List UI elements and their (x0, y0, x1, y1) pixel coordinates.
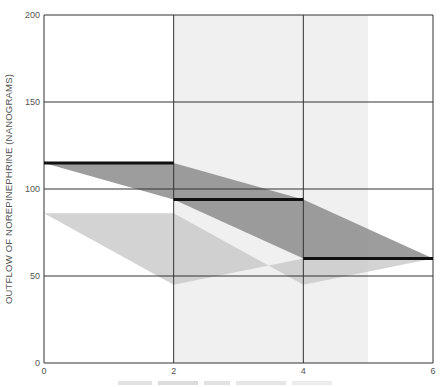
chart: 0501001502000246 OUTFLOW OF NOREPINEPHRI… (0, 0, 444, 387)
x-tick-label: 4 (301, 366, 306, 376)
x-axis-label-fragments (118, 381, 332, 385)
y-tick-label: 100 (25, 184, 40, 194)
x-tick-label: 0 (41, 366, 46, 376)
y-axis-label: OUTFLOW OF NOREPINEPHRINE (NANOGRAMS) (3, 74, 14, 304)
y-tick-label: 200 (25, 10, 40, 20)
range-areas (44, 163, 433, 285)
x-tick-label: 2 (171, 366, 176, 376)
y-tick-label: 50 (30, 271, 40, 281)
x-tick-label: 6 (430, 366, 435, 376)
y-tick-label: 150 (25, 97, 40, 107)
y-tick-label: 0 (35, 358, 40, 368)
